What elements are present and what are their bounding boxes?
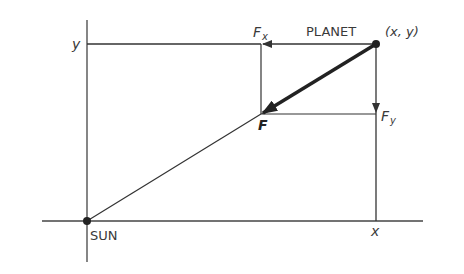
- planet-coords-label: (x, y): [385, 24, 419, 39]
- x-tick-label: x: [370, 223, 380, 239]
- force-x-label: F: [253, 24, 262, 40]
- gravity-force-diagram: y x SUN PLANET (x, y) F x F y F: [0, 0, 464, 274]
- force-x-subscript: x: [261, 31, 268, 42]
- sun-point: [83, 217, 91, 225]
- force-label: F: [258, 117, 268, 133]
- force-y-subscript: y: [389, 115, 397, 126]
- force-y-label: F: [381, 108, 390, 124]
- planet-label: PLANET: [306, 24, 356, 39]
- sun-to-force-line: [87, 114, 261, 221]
- sun-label: SUN: [90, 228, 118, 243]
- planet-point: [372, 40, 380, 48]
- y-tick-label: y: [71, 36, 81, 52]
- force-arrow: [263, 44, 376, 113]
